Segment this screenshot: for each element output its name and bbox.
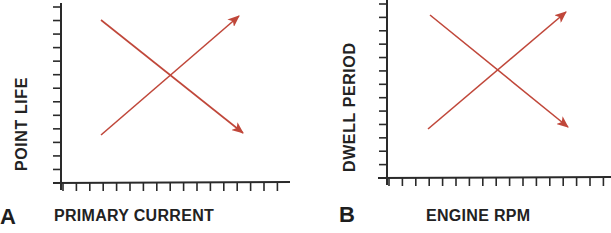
panel-a-x-axis-label: PRIMARY CURRENT <box>54 208 214 224</box>
panel-b-y-axis-label: DWELL PERIOD <box>342 42 358 172</box>
panel-b-graph <box>378 0 611 186</box>
panel-b-letter: B <box>339 204 355 226</box>
crossing-arrows-diagram <box>0 0 611 233</box>
increasing-line-arrow <box>101 16 239 135</box>
x-axis-line <box>378 177 611 178</box>
panel-a-graph <box>53 3 290 191</box>
panel-a-letter: A <box>0 206 16 228</box>
figure-stage: A PRIMARY CURRENT POINT LIFE B ENGINE RP… <box>0 0 611 233</box>
panel-a-y-axis-label: POINT LIFE <box>14 77 30 171</box>
panel-b-x-axis-label: ENGINE RPM <box>426 208 530 224</box>
x-axis-line <box>53 182 290 183</box>
